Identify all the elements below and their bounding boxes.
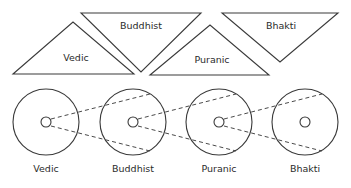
triangle-label-puranic: Puranic (194, 54, 229, 65)
stage-core-buddhist (128, 117, 138, 127)
diagram-canvas: Vedic Buddhist Puranic Bhakti (0, 0, 351, 188)
stage-core-vedic (41, 117, 51, 127)
stage-group-puranic[interactable]: Puranic (186, 89, 252, 174)
triangle-puranic[interactable] (150, 25, 269, 75)
stage-circle-bhakti[interactable] (272, 89, 338, 155)
stage-circle-puranic[interactable] (186, 89, 252, 155)
stage-circle-vedic[interactable] (13, 89, 79, 155)
tradition-evolution-diagram: Vedic Buddhist Puranic Bhakti (0, 0, 351, 188)
stage-core-puranic (214, 117, 224, 127)
stage-label-vedic: Vedic (33, 163, 59, 174)
stage-label-bhakti: Bhakti (290, 163, 320, 174)
triangle-label-bhakti: Bhakti (266, 20, 296, 31)
stage-group-bhakti[interactable]: Bhakti (272, 89, 338, 174)
triangle-group-buddhist[interactable]: Buddhist (81, 13, 201, 72)
triangle-group-bhakti[interactable]: Bhakti (222, 13, 338, 62)
stage-group-buddhist[interactable]: Buddhist (100, 89, 166, 174)
stage-circle-buddhist[interactable] (100, 89, 166, 155)
stage-label-puranic: Puranic (201, 163, 236, 174)
stage-label-buddhist: Buddhist (112, 163, 154, 174)
triangle-group-puranic[interactable]: Puranic (150, 25, 269, 75)
triangle-label-buddhist: Buddhist (120, 20, 162, 31)
triangle-band: Vedic Buddhist Puranic Bhakti (13, 13, 338, 75)
triangle-label-vedic: Vedic (63, 52, 89, 63)
circle-band: Vedic Buddhist Puranic Bhakti (13, 89, 338, 174)
stage-group-vedic[interactable]: Vedic (13, 89, 79, 174)
stage-core-bhakti (300, 117, 310, 127)
